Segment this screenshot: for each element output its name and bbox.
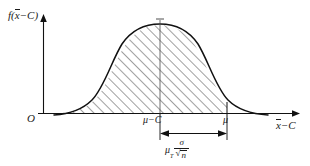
sqrt-icon: n <box>176 150 187 160</box>
annotation-numerator: σ <box>177 138 185 148</box>
dimension-arrow <box>160 118 227 140</box>
shaded-area <box>50 20 235 114</box>
tick-label-mu: μ <box>223 115 228 125</box>
interval-annotation: μT σ n <box>165 138 189 160</box>
y-axis-label-suffix: −C) <box>20 9 38 21</box>
annotation-fraction: σ n <box>174 138 189 160</box>
tick-label-mu-minus-c: μ−C <box>143 115 161 125</box>
x-axis-label: x−C <box>276 119 296 131</box>
statistics-figure: f(x−C) x−C O μ−C μ μT σ n <box>0 0 310 166</box>
plot-canvas <box>0 0 310 166</box>
y-axis-label-prefix: f( <box>8 9 15 21</box>
y-axis-label: f(x−C) <box>8 9 38 21</box>
y-axis-label-xbar: x <box>15 9 20 21</box>
x-axis-label-suffix: −C <box>281 119 296 131</box>
annotation-denominator: n <box>174 148 189 160</box>
x-axis-label-xbar: x <box>276 119 281 131</box>
annotation-mu-subscript: T <box>170 153 173 159</box>
annotation-denominator-var: n <box>180 150 187 160</box>
annotation-mu: μT <box>165 145 173 157</box>
origin-label: O <box>27 113 35 124</box>
y-axis <box>40 14 47 114</box>
